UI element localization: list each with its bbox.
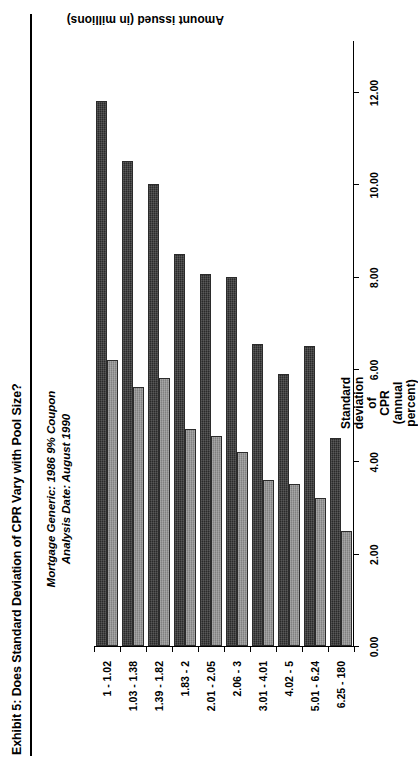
- category-axis-tick: [172, 646, 173, 652]
- bar-light: [263, 480, 274, 646]
- bar-group: [96, 40, 118, 646]
- category-axis-tick-label: 1.03 - 1.38: [127, 661, 139, 711]
- value-axis-tick-label: 0.00: [368, 637, 380, 657]
- bar-group: [304, 40, 326, 646]
- value-axis-tick: [353, 184, 359, 185]
- value-axis-title-line-6: percent): [405, 233, 418, 573]
- bar-dark: [200, 274, 211, 646]
- category-axis-tick: [94, 646, 95, 652]
- bar-light: [289, 484, 300, 646]
- bar-group: [174, 40, 196, 646]
- value-axis-tick-label: 12.00: [368, 80, 380, 106]
- bar-dark: [174, 254, 185, 646]
- bar-chart-plot-area: 0.002.004.006.008.0010.0012.001 - 1.021.…: [94, 41, 354, 647]
- value-axis-tick-label: 10.00: [368, 172, 380, 198]
- bar-light: [211, 436, 222, 646]
- bar-dark: [304, 346, 315, 646]
- value-axis-tick: [353, 92, 359, 93]
- category-axis-tick: [146, 646, 147, 652]
- subtitle-line-1: Mortgage Generic: 1986 9% Coupon: [44, 209, 59, 769]
- category-axis-tick-label: 3.01 - 4.01: [257, 661, 269, 711]
- bar-dark: [252, 344, 263, 646]
- chart-subtitle: Mortgage Generic: 1986 9% Coupon Analysi…: [44, 209, 74, 769]
- bar-dark: [226, 277, 237, 646]
- bar-dark: [122, 161, 133, 646]
- category-axis-tick-label: 2.01 - 2.05: [205, 661, 217, 711]
- bar-group: [252, 40, 274, 646]
- category-axis-tick: [328, 646, 329, 652]
- bar-light: [185, 429, 196, 646]
- bar-dark: [278, 374, 289, 646]
- bar-light: [133, 387, 144, 646]
- title-divider: [30, 14, 32, 756]
- bar-group: [200, 40, 222, 646]
- bar-dark: [96, 101, 107, 646]
- category-axis-tick-label: 2.06 - 3: [231, 661, 243, 697]
- bar-group: [122, 40, 144, 646]
- bar-dark: [148, 184, 159, 646]
- category-axis-tick-label: 1 - 1.02: [101, 661, 113, 697]
- bar-light: [237, 452, 248, 646]
- category-axis-tick-label: 1.83 - 2: [179, 661, 191, 697]
- category-axis-tick: [198, 646, 199, 652]
- category-axis-tick: [250, 646, 251, 652]
- bar-light: [315, 498, 326, 646]
- category-axis-tick: [120, 646, 121, 652]
- category-axis-tick-label: 4.02 - 5: [283, 661, 295, 697]
- bar-group: [148, 40, 170, 646]
- bar-light: [159, 378, 170, 646]
- category-axis-tick: [354, 646, 355, 652]
- category-axis-tick-label: 5.01 - 6.24: [309, 661, 321, 711]
- category-axis-tick: [302, 646, 303, 652]
- category-axis-tick: [224, 646, 225, 652]
- bar-group: [278, 40, 300, 646]
- category-axis-tick-label: 6.25 - 180: [335, 661, 347, 708]
- bar-group: [226, 40, 248, 646]
- category-axis-tick-label: 1.39 - 1.82: [153, 661, 165, 711]
- category-axis-title: Amount issued (in millions): [67, 13, 224, 27]
- value-axis-title: Standard deviation of CPR (annual percen…: [340, 233, 418, 573]
- bar-light: [107, 360, 118, 646]
- category-axis-tick: [276, 646, 277, 652]
- page-title: Exhibit 5: Does Standard Deviation of CP…: [10, 383, 24, 755]
- subtitle-line-2: Analysis Date: August 1990: [59, 209, 74, 769]
